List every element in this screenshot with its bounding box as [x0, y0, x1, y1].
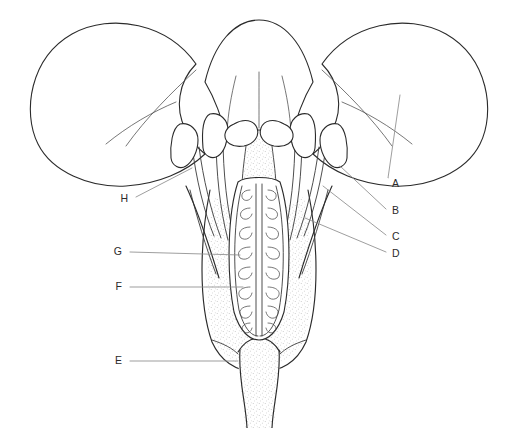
label-g: G	[114, 245, 122, 257]
label-f: F	[116, 280, 122, 292]
label-b: B	[392, 204, 399, 216]
flower-section-svg: ABCDEFGH	[0, 0, 520, 428]
label-h: H	[120, 192, 128, 204]
label-c: C	[392, 230, 400, 242]
label-e: E	[115, 354, 122, 366]
flower-diagram: ABCDEFGH	[0, 0, 520, 428]
ovary-group	[229, 178, 289, 341]
label-a: A	[392, 177, 399, 189]
label-d: D	[392, 247, 400, 259]
ovary-outline	[229, 178, 289, 341]
